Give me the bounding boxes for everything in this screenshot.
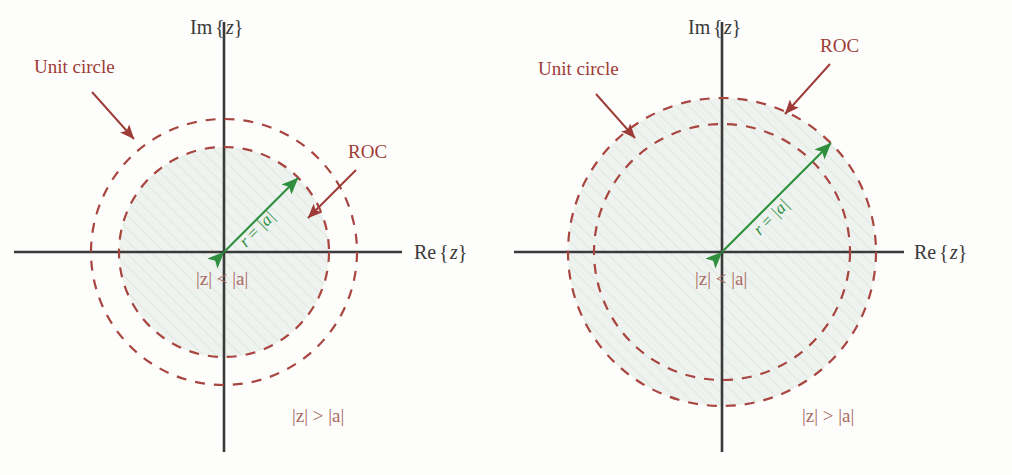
panel-left-causal-roc: Im {z} Re {z} Unit circle ROC r = |a| |z… [0, 0, 506, 475]
panel-right-canvas [506, 0, 1012, 475]
unit-circle-arrow [92, 92, 134, 139]
z-plane-roc-figure: Im {z} Re {z} Unit circle ROC r = |a| |z… [0, 0, 1012, 475]
roc-arrow [308, 170, 356, 218]
panel-left-canvas [0, 0, 506, 475]
roc-arrow [785, 64, 830, 114]
panel-right-anticausal-roc: Im {z} Re {z} Unit circle ROC r = |a| |z… [506, 0, 1012, 475]
unit-circle-arrow [596, 94, 635, 138]
